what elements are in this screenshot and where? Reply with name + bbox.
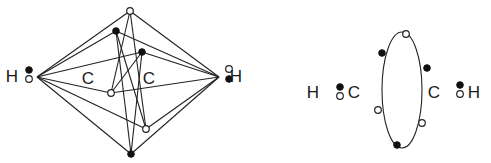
hydrogen-label: H <box>230 67 242 86</box>
right-bond-structure: HCCH <box>307 31 480 149</box>
pi-bond-ellipse <box>382 32 422 148</box>
bond-line <box>131 52 142 154</box>
filled-electron-icon <box>379 50 386 57</box>
filled-electron-icon <box>457 82 464 89</box>
filled-electron-icon <box>128 151 135 158</box>
carbon-label: C <box>348 83 360 102</box>
bond-line <box>130 11 219 77</box>
hydrogen-label: H <box>6 67 18 86</box>
open-electron-icon <box>337 93 344 100</box>
open-electron-icon <box>143 126 150 133</box>
carbon-label: C <box>428 83 440 102</box>
filled-electron-icon <box>337 84 344 91</box>
open-electron-icon <box>375 107 382 114</box>
bond-line <box>146 77 219 129</box>
left-bond-structure: HCCH <box>6 8 242 158</box>
bond-line <box>116 31 131 154</box>
filled-electron-icon <box>424 65 431 72</box>
open-electron-icon <box>127 8 134 15</box>
open-electron-icon <box>419 120 426 127</box>
filled-electron-icon <box>26 67 33 74</box>
bond-line <box>37 11 130 77</box>
hydrogen-label: H <box>307 83 319 102</box>
filled-electron-icon <box>394 142 401 149</box>
open-electron-icon <box>108 90 115 97</box>
open-electron-icon <box>403 31 410 38</box>
open-electron-icon <box>26 76 33 83</box>
filled-electron-icon <box>139 49 146 56</box>
carbon-label: C <box>143 69 155 88</box>
filled-electron-icon <box>113 28 120 35</box>
acetylene-diagram: HCCH HCCH <box>0 0 491 163</box>
bond-line <box>37 77 111 93</box>
open-electron-icon <box>457 91 464 98</box>
hydrogen-label: H <box>468 83 480 102</box>
bond-line <box>37 31 116 77</box>
carbon-label: C <box>82 69 94 88</box>
